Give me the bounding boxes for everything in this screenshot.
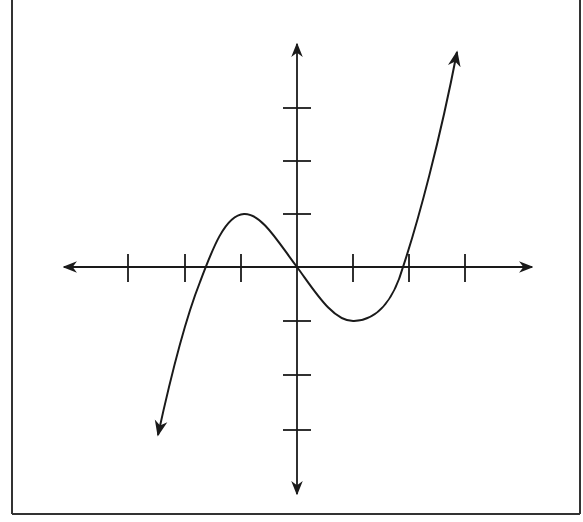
figure-frame <box>12 0 580 514</box>
cubic-graph <box>0 0 583 522</box>
chart-figure <box>0 0 583 522</box>
cubic-curve <box>158 52 457 435</box>
